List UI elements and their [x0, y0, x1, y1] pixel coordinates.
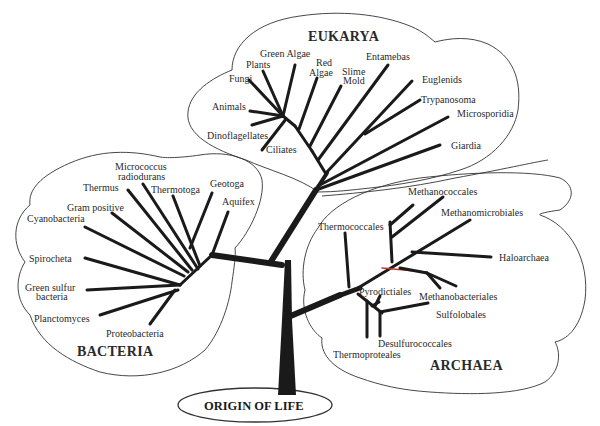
taxon-pyrodictiales: Pyrodictiales [359, 286, 411, 297]
taxon-desulfurococcales: Desulfurococcales [378, 338, 452, 349]
taxon-haloarchaea: Haloarchaea [499, 252, 550, 263]
domain-label-archaea: ARCHAEA [430, 358, 503, 373]
taxon-thermoproteales: Thermoproteales [333, 349, 401, 360]
taxon-spirocheta: Spirocheta [29, 253, 72, 264]
taxon-methanobacteriales: Methanobacteriales [419, 291, 497, 302]
taxon-thermococcales: Thermococcales [318, 221, 384, 232]
taxon-ciliates: Ciliates [266, 144, 297, 155]
taxon-cyanobacteria: Cyanobacteria [27, 213, 85, 224]
taxon-euglenids: Euglenids [422, 74, 462, 85]
taxon-aquifex: Aquifex [222, 196, 255, 207]
taxon-sulfolobales: Sulfolobales [436, 309, 486, 320]
taxon-geotoga: Geotoga [210, 178, 244, 189]
taxon-methanomicrobiales: Methanomicrobiales [441, 207, 523, 218]
taxon-dinoflagellates: Dinoflagellates [207, 130, 268, 141]
taxon-methanococcales: Methanococcales [408, 186, 478, 197]
taxon-fungi: Fungi [229, 73, 253, 84]
taxon-green-algae: Green Algae [260, 48, 311, 59]
taxon-trypanosoma: Trypanosoma [421, 94, 476, 105]
taxon-thermotoga: Thermotoga [151, 184, 200, 195]
taxon-entamebas: Entamebas [366, 51, 410, 62]
tree-of-life-diagram: EUKARYA Green Algae Plants Fungi Red Alg… [0, 0, 600, 426]
taxon-microsporidia: Microsporidia [457, 108, 514, 119]
taxon-bacteria-suffix: bacteria [36, 291, 68, 302]
tree-svg: EUKARYA Green Algae Plants Fungi Red Alg… [0, 0, 600, 426]
taxon-animals: Animals [212, 101, 246, 112]
taxon-gram-positive: Gram positive [67, 202, 124, 213]
taxon-giardia: Giardia [451, 140, 482, 151]
taxon-mold: Mold [343, 75, 365, 86]
taxon-plants: Plants [246, 59, 271, 70]
taxon-algae: Algae [309, 67, 333, 78]
domain-label-bacteria: BACTERIA [77, 344, 154, 359]
domain-label-eukarya: EUKARYA [308, 29, 380, 44]
taxon-planctomyces: Planctomyces [34, 313, 90, 324]
taxon-radiodurans: radiodurans [118, 171, 165, 182]
taxon-proteobacteria: Proteobacteria [106, 328, 164, 339]
origin-of-life-label: ORIGIN OF LIFE [204, 399, 304, 413]
taxon-thermus: Thermus [83, 182, 119, 193]
